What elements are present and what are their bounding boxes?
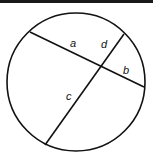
label-b: b [123,64,129,76]
circle [7,13,145,151]
label-c: c [66,90,72,102]
chord-ab [30,32,144,87]
circle-chord-diagram: a d b c [0,0,153,157]
label-a: a [70,37,76,49]
chord-cd [45,34,124,145]
label-d: d [101,38,108,50]
